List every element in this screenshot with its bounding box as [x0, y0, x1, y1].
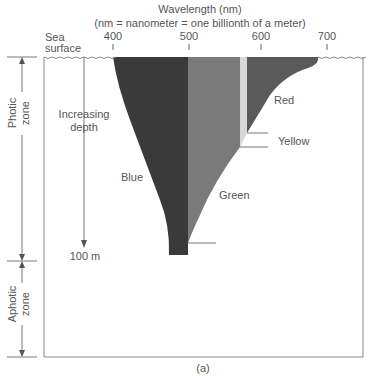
depth-label-2: depth — [70, 121, 98, 133]
label-yellow: Yellow — [278, 135, 309, 147]
tick-600: 600 — [252, 30, 270, 42]
green-band — [188, 57, 240, 243]
depth-marker: 100 m — [70, 250, 101, 262]
depth-label-1: Increasing — [59, 108, 110, 120]
photic-label-2: zone — [19, 101, 31, 125]
label-red: Red — [274, 94, 294, 106]
sea-label-2: surface — [45, 42, 81, 54]
aphotic-label-2: zone — [19, 292, 31, 316]
photic-label-1: Photic — [6, 97, 18, 128]
yellow-band — [240, 57, 247, 147]
caption: (a) — [196, 362, 209, 374]
sea-surface-waves — [44, 57, 116, 59]
blue-band — [113, 57, 188, 255]
tick-500: 500 — [180, 30, 198, 42]
label-blue: Blue — [121, 171, 143, 183]
aphotic-label-1: Aphotic — [6, 285, 18, 322]
tick-700: 700 — [318, 30, 336, 42]
subtitle: (nm = nanometer = one billionth of a met… — [94, 17, 306, 29]
title: Wavelength (nm) — [158, 3, 241, 15]
light-penetration-diagram: Wavelength (nm) (nm = nanometer = one bi… — [0, 0, 373, 376]
label-green: Green — [219, 189, 250, 201]
tick-400: 400 — [104, 30, 122, 42]
